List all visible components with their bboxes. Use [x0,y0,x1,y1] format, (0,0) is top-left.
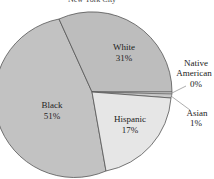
label-white-pct: 31% [116,53,133,63]
label-hispanic-pct: 17% [122,125,139,135]
label-native-pct: 0% [190,79,203,89]
label-asian-pct: 1% [190,118,203,128]
pie-chart: White 31% Native American 0% Asian 1% Hi… [0,0,214,179]
label-asian-name: Asian [187,108,208,118]
label-native-name1: Native [184,58,208,68]
label-hispanic-name: Hispanic [114,114,146,124]
label-black-name: Black [42,100,63,110]
label-white-name: White [113,42,135,52]
label-native-name2: American [176,68,212,78]
label-black-pct: 51% [44,111,61,121]
